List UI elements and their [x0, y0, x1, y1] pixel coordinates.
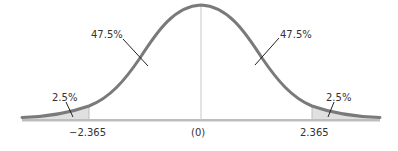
center-value-label: (0) [191, 127, 205, 138]
right-critical-value-label: 2.365 [300, 127, 329, 138]
left-critical-value-label: −2.365 [69, 127, 106, 138]
t-distribution-diagram: 47.5% 47.5% 2.5% 2.5% −2.365 (0) 2.365 [0, 0, 398, 151]
left-tail-label: 2.5% [52, 92, 77, 103]
left-body-label: 47.5% [91, 29, 123, 40]
right-tail-label: 2.5% [326, 92, 351, 103]
right-body-label: 47.5% [280, 29, 312, 40]
